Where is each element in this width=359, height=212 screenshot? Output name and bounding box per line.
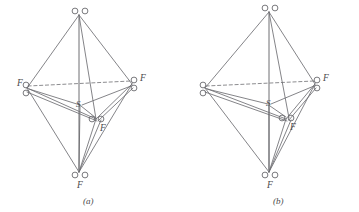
label-left-fluorine-a: F [17,79,23,89]
figure-root: F F F F S (a) [0,0,359,212]
atom-bottom-1 [72,172,78,178]
edge-rear-dashed-b [206,81,314,86]
edge-left2-to-front2 [27,92,97,121]
label-front-fluorine-b: F [290,123,296,133]
edge-top-to-left [27,15,79,88]
atom-left-1-b [200,82,206,88]
edge-top-to-front [79,15,96,119]
label-front-fluorine-a: F [100,124,106,134]
atom-top-2 [82,8,88,14]
atom-bottom-1-b [262,172,268,178]
edge-right2-to-front2-b [289,88,316,120]
caption-a: (a) [83,196,94,206]
label-right-fluorine-b: F [323,74,329,84]
edge-right2-to-front2 [99,88,133,120]
edge-front-to-bottom [79,119,96,172]
atom-bottom-2-b [272,172,278,178]
edge-left-to-bottom [27,88,79,172]
atom-left-2-b [200,90,206,96]
atom-top-1 [72,8,78,14]
atom-left-1 [23,82,29,88]
label-right-fluorine-a: F [140,74,146,84]
diagram-panel-a: F F F F S (a) [0,0,179,212]
bond-S-to-left-b [207,89,268,104]
atom-top-2-b [272,5,278,11]
label-bottom-fluorine-a: F [77,181,83,191]
label-center-sulfur-a: S [76,100,81,109]
bond-S-to-right-b [271,86,314,104]
edge-front2-to-bottom [79,120,101,172]
atom-bottom-2 [82,172,88,178]
diagram-panel-b: F F F S (b) [180,0,359,212]
atom-circles-a [23,8,137,178]
bond-S-to-right [82,86,131,105]
edge-right-to-front-b [286,84,315,119]
edge-left2-to-front2-b [205,92,287,121]
edge-top-to-left-b [205,12,269,88]
bond-S-to-left [29,89,80,105]
edge-front-to-bottom-b [269,119,286,172]
atom-right-2-b [314,85,320,91]
atom-top-1-b [262,5,268,11]
label-bottom-fluorine-b: F [267,181,273,191]
atom-left-2 [23,90,29,96]
edge-front2-to-bottom-b [269,120,291,172]
panel-a-drawing [0,0,179,212]
atom-right-1 [131,77,137,83]
caption-b: (b) [273,196,284,206]
edge-top-to-right [79,15,132,84]
label-center-sulfur-b: S [266,99,271,108]
atom-right-1-b [314,77,320,83]
atom-right-2 [131,85,137,91]
